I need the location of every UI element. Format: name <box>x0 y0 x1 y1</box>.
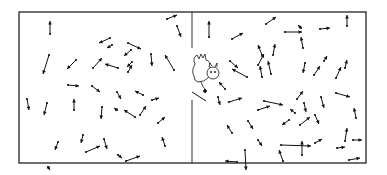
molecule-arrow <box>125 155 140 162</box>
molecule-arrow <box>48 21 52 35</box>
molecule-arrow <box>99 106 103 119</box>
molecule-arrow <box>352 138 362 142</box>
molecule-arrow <box>116 91 121 99</box>
molecule-arrow <box>103 138 108 149</box>
molecule-arrow <box>335 67 341 79</box>
molecule-arrow <box>303 102 307 112</box>
molecule-arrow <box>344 60 348 69</box>
molecule-arrow <box>257 54 264 66</box>
molecule-arrow <box>107 44 113 48</box>
molecule-arrow <box>150 53 154 66</box>
molecule-arrow <box>263 100 283 106</box>
molecule-arrow <box>282 119 290 125</box>
molecule-arrow <box>124 110 136 118</box>
molecule-arrow <box>91 85 100 92</box>
molecule-arrow <box>265 17 276 25</box>
molecule-arrow <box>296 91 303 100</box>
molecule-arrow <box>314 139 322 144</box>
molecule-arrow <box>67 84 79 88</box>
molecule-arrow <box>313 66 320 76</box>
molecule-arrow <box>124 49 132 56</box>
molecule-arrow <box>219 82 226 90</box>
molecule-arrow <box>231 33 243 40</box>
molecule-arrow <box>165 55 175 71</box>
molecule-arrow <box>336 146 345 150</box>
molecule-arrow <box>279 150 285 162</box>
molecule-arrow <box>314 114 319 124</box>
molecule-arrow <box>258 45 263 56</box>
molecule-arrow <box>127 61 133 67</box>
molecule-arrow <box>348 157 360 161</box>
molecule-arrow <box>300 37 304 49</box>
molecule-arrow <box>259 66 263 78</box>
molecule-arrow <box>207 21 211 38</box>
molecule-arrow <box>127 42 141 49</box>
molecule-arrow <box>290 109 296 114</box>
molecule-arrow <box>257 139 262 146</box>
molecule-arrow <box>47 166 50 170</box>
molecule-arrow <box>72 99 76 111</box>
right-chamber-molecules <box>207 15 362 170</box>
maxwell-demon-diagram <box>0 0 387 175</box>
molecule-arrow <box>139 106 146 116</box>
molecule-arrow <box>229 60 238 68</box>
molecule-arrow <box>217 96 221 105</box>
molecule-arrow <box>105 63 119 69</box>
molecule-arrow <box>280 144 311 148</box>
molecule-arrow <box>244 149 248 170</box>
molecule-arrow <box>55 141 60 150</box>
molecule-arrow <box>302 62 306 73</box>
molecule-arrow <box>284 30 302 34</box>
molecule-arrow <box>176 25 182 37</box>
molecule-arrow <box>161 137 166 147</box>
molecule-arrow <box>92 58 102 69</box>
molecule-arrow <box>320 96 325 108</box>
molecule-arrow <box>353 108 357 119</box>
molecule-arrow <box>99 37 111 43</box>
molecule-arrow <box>114 108 118 111</box>
molecule-arrow <box>232 69 248 78</box>
molecule-arrow <box>228 97 242 103</box>
molecule-arrow <box>43 102 48 115</box>
molecule-arrow <box>344 128 348 142</box>
molecule-arrow <box>157 117 165 124</box>
diagram-canvas <box>0 0 387 175</box>
molecule-arrow <box>299 117 310 126</box>
molecule-arrow <box>298 25 302 29</box>
molecule-arrow <box>267 61 272 75</box>
molecule-arrow <box>323 56 327 62</box>
molecule-arrow <box>67 59 77 69</box>
molecule-arrow <box>272 44 276 56</box>
molecule-arrow <box>166 15 177 20</box>
molecule-arrow <box>80 134 84 143</box>
molecule-arrow <box>257 105 270 111</box>
demon-icon <box>192 54 219 101</box>
molecule-arrow <box>300 141 304 156</box>
molecule-arrow <box>247 120 253 129</box>
molecule-arrow <box>85 146 100 153</box>
molecule-arrow <box>345 15 349 27</box>
molecule-arrow <box>151 97 159 101</box>
molecule-arrow <box>227 125 233 134</box>
molecule-arrow <box>42 54 50 74</box>
molecule-arrow <box>319 27 330 31</box>
molecule-arrow <box>117 154 122 158</box>
left-chamber-molecules <box>26 15 182 170</box>
molecule-arrow <box>26 98 30 110</box>
molecule-arrow <box>335 92 350 98</box>
molecule-arrow <box>135 91 144 96</box>
